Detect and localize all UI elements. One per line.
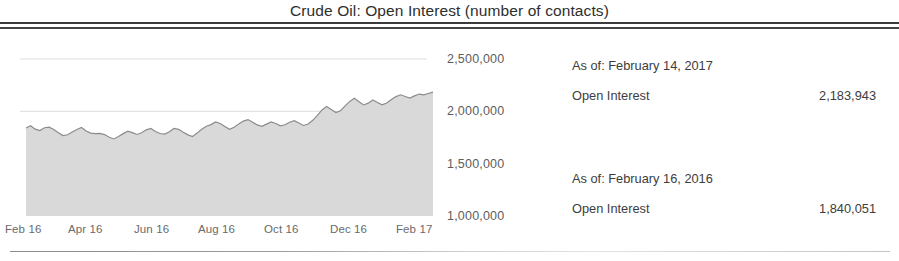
y-axis-tick-label: 1,500,000 [447, 157, 504, 171]
readout-row-open-interest-current: Open Interest 2,183,943 [572, 87, 890, 104]
y-axis-tick-label: 2,500,000 [447, 52, 504, 66]
page-title: Crude Oil: Open Interest (number of cont… [0, 1, 899, 20]
x-axis-tick-label: Aug 16 [198, 223, 235, 236]
readout-value-open-interest-prior: 1,840,051 [819, 200, 876, 217]
series-area-fill [26, 92, 433, 216]
readout-group-current: As of: February 14, 2017 Open Interest 2… [572, 58, 890, 104]
x-axis-tick-label: Oct 16 [264, 223, 298, 236]
open-interest-area-chart: 1,000,0001,500,0002,000,0002,500,000 Feb… [0, 36, 545, 246]
footer-divider [10, 251, 890, 252]
readout-as-of-date-current: As of: February 14, 2017 [572, 58, 890, 74]
x-axis-tick-label: Dec 16 [330, 223, 367, 236]
y-axis-tick-label: 2,000,000 [447, 104, 504, 118]
x-axis-tick-label: Apr 16 [68, 223, 102, 236]
readout-group-prior: As of: February 16, 2016 Open Interest 1… [572, 171, 890, 217]
readout-label-open-interest-current: Open Interest [572, 87, 650, 104]
x-axis-tick-label: Jun 16 [134, 223, 169, 236]
header-divider [0, 22, 899, 31]
header-divider-line-bottom [0, 27, 899, 29]
readout-label-open-interest-prior: Open Interest [572, 200, 650, 217]
y-axis-tick-label: 1,000,000 [447, 209, 504, 223]
readout-panel: As of: February 14, 2017 Open Interest 2… [572, 58, 890, 233]
x-axis-tick-label: Feb 17 [396, 223, 432, 236]
readout-value-open-interest-current: 2,183,943 [819, 87, 876, 104]
readout-as-of-date-prior: As of: February 16, 2016 [572, 171, 890, 187]
header-divider-line-top [0, 22, 899, 24]
x-axis-tick-label: Feb 16 [5, 223, 41, 236]
readout-row-open-interest-prior: Open Interest 1,840,051 [572, 200, 890, 217]
